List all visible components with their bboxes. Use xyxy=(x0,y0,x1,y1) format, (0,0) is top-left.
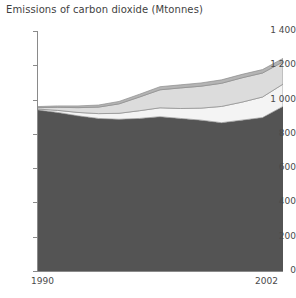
co2-emissions-area-chart: Emissions of carbon dioxide (Mtonnes) 02… xyxy=(0,0,296,298)
x-axis-label-end: 2002 xyxy=(255,276,278,286)
y-label-600: 600 xyxy=(266,163,296,172)
y-tick-1200 xyxy=(33,65,37,66)
y-tick-600 xyxy=(33,168,37,169)
y-tick-1000 xyxy=(33,100,37,101)
y-label-1200: 1 200 xyxy=(266,60,296,69)
y-axis-line xyxy=(37,31,38,272)
y-label-1000: 1 000 xyxy=(266,95,296,104)
area-layer-1-base xyxy=(37,106,283,271)
plot-area xyxy=(37,31,283,271)
x-axis-line xyxy=(37,271,283,272)
x-axis-label-start: 1990 xyxy=(31,276,54,286)
y-label-400: 400 xyxy=(266,197,296,206)
y-tick-400 xyxy=(33,202,37,203)
y-label-200: 200 xyxy=(266,232,296,241)
y-tick-0 xyxy=(33,271,37,272)
y-tick-200 xyxy=(33,237,37,238)
y-label-800: 800 xyxy=(266,129,296,138)
y-tick-800 xyxy=(33,134,37,135)
stacked-area-svg xyxy=(37,31,283,271)
chart-title: Emissions of carbon dioxide (Mtonnes) xyxy=(6,4,203,15)
y-label-1400: 1 400 xyxy=(266,26,296,35)
y-label-0: 0 xyxy=(266,266,296,275)
y-tick-1400 xyxy=(33,31,37,32)
